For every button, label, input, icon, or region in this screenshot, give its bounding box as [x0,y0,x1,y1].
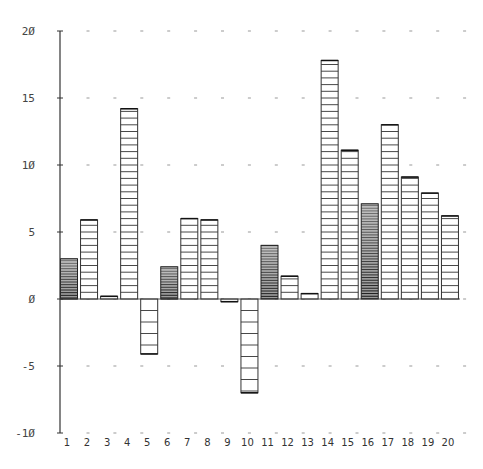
x-tick-label: 14 [321,437,334,448]
x-tick-label: 9 [224,437,230,448]
bar-9 [221,299,238,302]
bar-1 [61,259,78,299]
x-tick-label: 6 [164,437,170,448]
y-tick-label: -1Ø [15,427,35,440]
bar-11 [261,245,278,299]
x-tick-labels: 1234567891011121314151617181920 [64,437,455,448]
bar-13 [301,294,318,299]
y-tick-label: Ø [28,293,35,306]
bar-15 [341,150,358,299]
bar-20 [441,216,458,299]
bar-4 [121,109,138,299]
x-tick-label: 15 [341,437,354,448]
bar-chart: 2Ø151Ø5Ø-5-1Ø 12345678910111213141516171… [0,0,483,469]
bar-19 [421,193,438,299]
bar-10 [241,299,258,393]
bar-8 [201,220,218,299]
bar-12 [281,276,298,299]
y-tick-label: 15 [22,92,35,105]
x-tick-label: 7 [184,437,190,448]
x-tick-label: 16 [361,437,374,448]
x-tick-label: 4 [124,437,130,448]
bar-7 [181,219,198,299]
x-tick-label: 3 [104,437,110,448]
x-tick-label: 5 [144,437,150,448]
x-tick-label: 2 [84,437,90,448]
y-tick-label: 1Ø [22,159,36,172]
x-tick-label: 11 [261,437,274,448]
bar-6 [161,267,178,299]
bar-3 [101,296,118,299]
x-tick-label: 13 [301,437,314,448]
y-tick-label: 2Ø [22,25,36,38]
x-tick-label: 17 [381,437,394,448]
x-tick-label: 12 [281,437,294,448]
bar-14 [321,60,338,299]
bar-5 [141,299,158,354]
x-tick-label: 19 [422,437,435,448]
bar-16 [361,204,378,299]
y-axis [57,31,460,433]
bar-17 [381,125,398,299]
x-tick-label: 18 [401,437,414,448]
y-tick-label: -5 [22,360,35,373]
bar-2 [81,220,98,299]
x-tick-label: 1 [64,437,70,448]
bar-18 [401,177,418,299]
x-tick-label: 20 [442,437,455,448]
y-tick-labels: 2Ø151Ø5Ø-5-1Ø [15,25,35,440]
y-tick-label: 5 [28,226,35,239]
bars [61,60,459,392]
x-tick-label: 8 [204,437,210,448]
x-tick-label: 10 [241,437,254,448]
